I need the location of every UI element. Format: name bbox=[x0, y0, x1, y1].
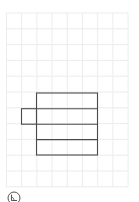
drawn-figure bbox=[22, 93, 98, 155]
side-tab-rectangle[interactable] bbox=[22, 109, 37, 125]
angle-tool-icon[interactable] bbox=[7, 190, 21, 202]
grid-lines bbox=[7, 13, 129, 187]
angle-tool-icon-glyph bbox=[7, 191, 21, 202]
grid-paper-canvas[interactable] bbox=[0, 0, 139, 202]
